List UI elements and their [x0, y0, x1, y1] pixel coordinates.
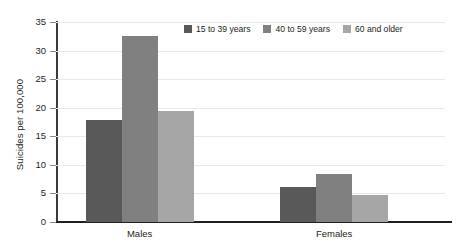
- bar-chart: Suicides per 100,000 05101520253035 Male…: [0, 0, 461, 249]
- legend-swatch-icon: [184, 25, 192, 33]
- legend-label: 40 to 59 years: [275, 24, 329, 34]
- bar: [280, 187, 316, 222]
- y-axis-tick-label: 0: [22, 217, 46, 227]
- y-axis-tick-label: 20: [22, 103, 46, 113]
- bar: [352, 195, 388, 222]
- x-axis-category-label: Females: [284, 228, 384, 239]
- gridline: [56, 108, 445, 109]
- gridline: [56, 79, 445, 80]
- gridline: [56, 22, 445, 23]
- legend-item: 60 and older: [343, 24, 403, 34]
- chart-legend: 15 to 39 years40 to 59 years60 and older: [184, 24, 403, 34]
- legend-item: 15 to 39 years: [184, 24, 250, 34]
- y-axis-tick-label: 5: [22, 188, 46, 198]
- bar: [316, 174, 352, 222]
- x-axis-category-label: Males: [90, 228, 190, 239]
- y-axis-tick-label: 30: [22, 46, 46, 56]
- legend-item: 40 to 59 years: [263, 24, 329, 34]
- gridline: [56, 51, 445, 52]
- bar: [122, 36, 158, 222]
- y-axis-tick-label: 10: [22, 160, 46, 170]
- plot-area: [56, 22, 445, 222]
- legend-label: 15 to 39 years: [196, 24, 250, 34]
- legend-swatch-icon: [343, 25, 351, 33]
- y-axis-title: Suicides per 100,000: [10, 0, 30, 249]
- y-axis-tick-label: 25: [22, 74, 46, 84]
- bar: [86, 120, 122, 222]
- legend-label: 60 and older: [355, 24, 403, 34]
- legend-swatch-icon: [263, 25, 271, 33]
- y-axis-tick-label: 15: [22, 131, 46, 141]
- bar: [158, 111, 194, 222]
- y-axis-tick-label: 35: [22, 17, 46, 27]
